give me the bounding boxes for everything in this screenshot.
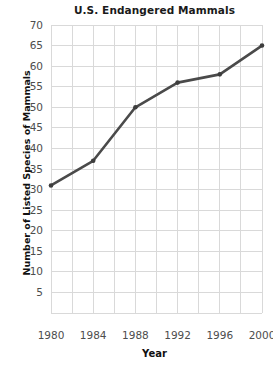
chart-title: U.S. Endangered Mammals bbox=[46, 4, 263, 16]
data-point-marker bbox=[133, 105, 138, 110]
y-tick-label: 35 bbox=[3, 164, 43, 175]
y-tick-label: 15 bbox=[3, 246, 43, 257]
x-tick-label: 1992 bbox=[155, 330, 201, 341]
y-tick-label: 20 bbox=[3, 225, 43, 236]
data-point-marker bbox=[49, 183, 54, 188]
y-tick-label: 65 bbox=[3, 40, 43, 51]
x-tick-label: 1996 bbox=[197, 330, 243, 341]
y-tick-label: 25 bbox=[3, 205, 43, 216]
x-tick-label: 2000 bbox=[239, 330, 273, 341]
x-tick-label: 1988 bbox=[112, 330, 158, 341]
data-point-marker bbox=[91, 158, 96, 163]
y-tick-label: 55 bbox=[3, 81, 43, 92]
plot-svg bbox=[51, 25, 262, 313]
data-point-marker bbox=[175, 80, 180, 85]
y-tick-label: 50 bbox=[3, 102, 43, 113]
y-tick-label: 60 bbox=[3, 61, 43, 72]
y-tick-label: 30 bbox=[3, 184, 43, 195]
data-point-marker bbox=[218, 72, 223, 77]
x-tick-label: 1980 bbox=[28, 330, 74, 341]
data-point-marker bbox=[260, 43, 265, 48]
y-tick-label: 70 bbox=[3, 20, 43, 31]
y-tick-label: 40 bbox=[3, 143, 43, 154]
plot-area bbox=[51, 25, 262, 313]
chart-container: U.S. Endangered Mammals Number of Listed… bbox=[0, 0, 273, 367]
x-tick-label: 1984 bbox=[70, 330, 116, 341]
y-tick-label: 10 bbox=[3, 266, 43, 277]
y-tick-label: 5 bbox=[3, 287, 43, 298]
y-tick-label: 45 bbox=[3, 122, 43, 133]
x-axis-title: Year bbox=[46, 348, 263, 359]
